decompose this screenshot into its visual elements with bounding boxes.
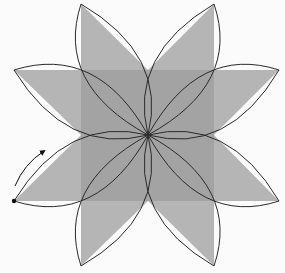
- triangle-top-right: [148, 4, 214, 70]
- petals-group: [14, 4, 279, 266]
- triangle-top-left: [81, 4, 148, 70]
- diagram-canvas: [0, 0, 285, 273]
- triangle-bottom-right: [148, 201, 214, 266]
- triangle-right-bottom: [214, 135, 279, 201]
- start-dot: [12, 199, 16, 203]
- rosette-figure: [0, 0, 285, 273]
- triangle-left-top: [14, 70, 81, 135]
- triangle-bottom-left: [81, 201, 148, 266]
- triangle-right-top: [214, 70, 279, 135]
- triangle-left-bottom: [14, 135, 81, 201]
